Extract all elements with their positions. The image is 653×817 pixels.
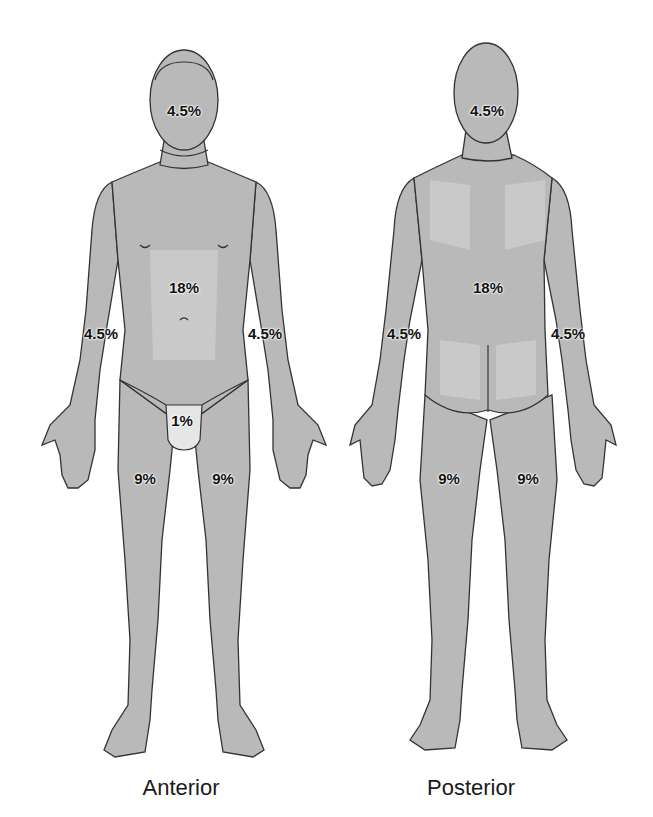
anterior-right-leg	[193, 380, 264, 757]
anterior-left-leg	[104, 380, 175, 757]
anterior-caption: Anterior	[142, 775, 219, 801]
posterior-figure	[350, 43, 616, 750]
posterior-left-arm-label: 4.5%	[387, 325, 421, 342]
anterior-left-arm-label: 4.5%	[248, 325, 282, 342]
anterior-figure	[42, 50, 326, 757]
anterior-right-arm-label: 4.5%	[84, 325, 118, 342]
posterior-trunk-label: 18%	[473, 279, 503, 296]
posterior-caption: Posterior	[427, 775, 515, 801]
anterior-trunk-label: 18%	[169, 279, 199, 296]
anterior-genitalia-label: 1%	[171, 412, 193, 429]
posterior-head-label: 4.5%	[470, 102, 504, 119]
posterior-right-leg	[490, 395, 567, 750]
anterior-head-label: 4.5%	[167, 102, 201, 119]
posterior-right-leg-label: 9%	[517, 470, 539, 487]
posterior-right-arm-label: 4.5%	[551, 325, 585, 342]
posterior-left-leg	[410, 395, 487, 750]
posterior-left-leg-label: 9%	[438, 470, 460, 487]
anterior-right-leg-label: 9%	[134, 470, 156, 487]
anterior-left-leg-label: 9%	[212, 470, 234, 487]
body-diagram	[0, 0, 653, 817]
anterior-head	[150, 50, 218, 150]
posterior-head	[454, 43, 518, 143]
